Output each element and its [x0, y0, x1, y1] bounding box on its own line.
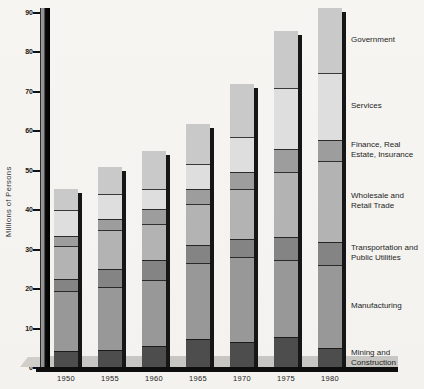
- y-axis-tick: [33, 170, 40, 172]
- y-tick-label: 80: [8, 47, 33, 57]
- bar-segment: [54, 246, 78, 280]
- bar-segment: [186, 339, 210, 368]
- bar-segment: [98, 230, 122, 269]
- bar-segment: [54, 210, 78, 236]
- bar-drop-shadow: [254, 88, 258, 368]
- bar-segment: [318, 8, 342, 72]
- legend-label: Mining and Construction: [351, 348, 423, 368]
- y-axis-tick: [33, 249, 40, 251]
- bar-segment: [142, 151, 166, 189]
- bar-segment: [274, 31, 298, 87]
- y-tick-label: 40: [8, 205, 33, 215]
- bar-drop-shadow: [78, 193, 82, 368]
- bar-segment: [318, 161, 342, 243]
- bar-segment: [142, 346, 166, 368]
- bar-segment: [54, 236, 78, 246]
- bar-segment: [142, 189, 166, 209]
- bar-segment: [318, 265, 342, 348]
- bar-segment: [318, 242, 342, 264]
- y-axis-tick: [33, 288, 40, 290]
- legend-label: Wholesale and Retail Trade: [351, 191, 423, 211]
- y-axis-tick: [33, 209, 40, 211]
- bar-segment: [274, 149, 298, 172]
- bar-segment: [98, 350, 122, 368]
- bar-segment: [274, 337, 298, 368]
- bar-segment: [54, 189, 78, 211]
- bar-segment: [230, 239, 254, 258]
- legend-label: Manufacturing: [351, 301, 423, 311]
- bar-segment: [230, 84, 254, 137]
- bar-drop-shadow: [166, 155, 170, 368]
- x-tick-label: 1965: [176, 374, 220, 383]
- bar-segment: [230, 257, 254, 342]
- y-tick-label: 30: [8, 245, 33, 255]
- bar-segment: [186, 164, 210, 189]
- x-axis: [36, 367, 398, 372]
- legend-label: Government: [351, 35, 423, 45]
- bar-drop-shadow: [298, 35, 302, 368]
- legend-label: Finance, Real Estate, Insurance: [351, 140, 423, 160]
- y-axis-tick: [33, 51, 40, 53]
- bar-drop-shadow: [122, 171, 126, 368]
- bar-segment: [142, 209, 166, 224]
- bar-segment: [142, 260, 166, 280]
- bar-segment: [186, 124, 210, 164]
- y-axis-tick: [33, 367, 40, 369]
- bar-segment: [274, 88, 298, 150]
- bar-segment: [142, 280, 166, 346]
- x-tick-label: 1980: [308, 374, 352, 383]
- bar-segment: [98, 167, 122, 194]
- bar-segment: [230, 137, 254, 172]
- bar-segment: [54, 351, 78, 368]
- bar-drop-shadow: [342, 12, 346, 368]
- x-tick-label: 1955: [88, 374, 132, 383]
- y-axis-tick: [33, 91, 40, 93]
- bar-segment: [318, 73, 342, 140]
- legend-label: Transportation and Public Utilities: [351, 243, 423, 263]
- x-tick-label: 1960: [132, 374, 176, 383]
- y-tick-label: 90: [8, 8, 33, 18]
- bar-segment: [98, 219, 122, 230]
- y-tick-label: 10: [8, 324, 33, 334]
- bar-segment: [54, 279, 78, 291]
- y-axis: [40, 8, 50, 368]
- x-tick-label: 1975: [264, 374, 308, 383]
- bar-segment: [318, 140, 342, 161]
- bar-segment: [230, 189, 254, 239]
- bar-segment: [186, 263, 210, 338]
- bar-segment: [186, 245, 210, 263]
- y-tick-label: 60: [8, 126, 33, 136]
- bar-segment: [274, 260, 298, 337]
- bar-segment: [230, 172, 254, 189]
- bar-segment: [186, 189, 210, 204]
- stacked-bar-chart: Millions of Persons 19501955196019651970…: [0, 0, 424, 389]
- bar-segment: [98, 194, 122, 219]
- legend-label: Services: [351, 101, 423, 111]
- bar-segment: [274, 237, 298, 260]
- y-axis-tick: [33, 130, 40, 132]
- bar-segment: [98, 287, 122, 350]
- y-axis-tick: [33, 328, 40, 330]
- x-tick-label: 1950: [44, 374, 88, 383]
- x-tick-label: 1970: [220, 374, 264, 383]
- y-tick-label: 70: [8, 87, 33, 97]
- y-axis-tick: [33, 12, 40, 14]
- bar-drop-shadow: [210, 128, 214, 368]
- y-tick-label: 50: [8, 166, 33, 176]
- bar-segment: [274, 172, 298, 237]
- bar-segment: [186, 204, 210, 245]
- bar-segment: [230, 342, 254, 368]
- bar-segment: [98, 269, 122, 287]
- y-tick-label: 20: [8, 284, 33, 294]
- bar-segment: [142, 224, 166, 261]
- bar-segment: [318, 348, 342, 368]
- bar-segment: [54, 291, 78, 351]
